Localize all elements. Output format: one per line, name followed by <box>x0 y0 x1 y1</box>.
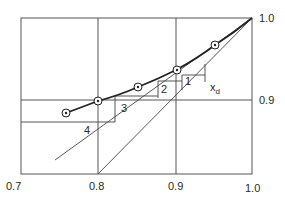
stage-label-2: 2 <box>161 83 167 95</box>
x-tick-0.9: 0.9 <box>168 180 183 192</box>
x-tick-0.8: 0.8 <box>89 180 104 192</box>
stage-label-1: 1 <box>185 75 191 87</box>
equilibrium-curve <box>66 18 252 113</box>
xd-label: xd <box>210 81 220 96</box>
stage-label-4: 4 <box>84 124 90 136</box>
y-tick-1.0: 1.0 <box>259 12 274 24</box>
x-tick-0.7: 0.7 <box>6 180 21 192</box>
x-tick-1.0: 1.0 <box>245 182 260 194</box>
y-tick-0.9: 0.9 <box>259 94 274 106</box>
mccabe-thiele-diagram: 1 2 3 4 xd 1.0 0.9 0.7 0.8 0.9 1.0 <box>0 0 285 206</box>
stage-label-3: 3 <box>121 102 127 114</box>
